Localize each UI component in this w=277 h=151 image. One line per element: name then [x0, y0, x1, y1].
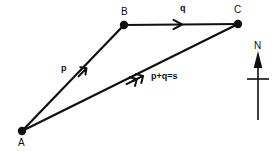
- vector-p: [22, 25, 124, 131]
- vertex-label-c: C: [234, 5, 241, 15]
- vertex-label-b: B: [121, 7, 128, 17]
- vector-q: [124, 20, 238, 29]
- compass-north-label: N: [254, 41, 261, 51]
- vertex-dot-c: [234, 20, 242, 28]
- vector-label-p: p: [61, 64, 67, 73]
- vector-diagram: A B C p q p+q=s N: [0, 0, 277, 151]
- compass-arrowhead: [254, 51, 263, 68]
- vector-label-sum: p+q=s: [151, 72, 178, 81]
- compass-north: [247, 51, 269, 120]
- vector-p-shaft: [22, 25, 124, 131]
- vertex-label-a: A: [18, 138, 25, 148]
- vertex-dot-b: [120, 21, 128, 29]
- vector-label-q: q: [180, 4, 186, 13]
- vertex-dot-a: [18, 127, 26, 135]
- vector-diagram-canvas: [0, 0, 277, 151]
- vector-s: [22, 24, 238, 131]
